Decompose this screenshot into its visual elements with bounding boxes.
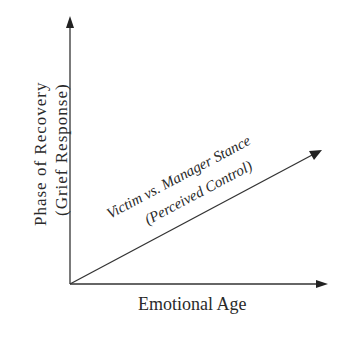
diagram-svg: Phase of Recovery (Grief Response) Emoti… [0,0,345,340]
x-axis-arrowhead-icon [316,280,328,288]
y-axis-arrowhead-icon [66,16,74,28]
diagram-canvas: Phase of Recovery (Grief Response) Emoti… [0,0,345,340]
y-axis-label-line2: (Grief Response) [52,83,71,216]
y-axis-label-line1: Phase of Recovery [31,82,50,226]
x-axis-label: Emotional Age [138,294,246,314]
